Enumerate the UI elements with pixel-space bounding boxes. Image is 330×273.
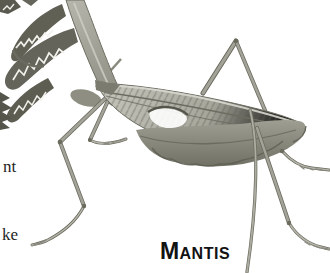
mantis-head	[0, 0, 38, 14]
mantis-illustration	[0, 0, 330, 273]
illustration-caption: Mantis	[128, 238, 262, 265]
mantis-leg-left-far	[32, 95, 109, 245]
book-page: nt ke o have a ay ws	[0, 0, 330, 273]
mantis-raptorial-forelegs	[0, 4, 78, 130]
